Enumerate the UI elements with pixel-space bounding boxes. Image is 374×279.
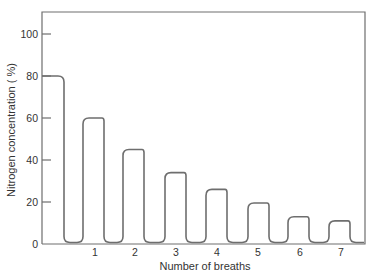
x-axis-ticks: 1234567	[92, 246, 344, 258]
y-tick-label: 60	[26, 112, 38, 124]
y-tick-label: 40	[26, 154, 38, 166]
x-tick-label: 4	[214, 246, 220, 258]
nitrogen-washout-chart: 020406080100 1234567 Number of breaths N…	[0, 0, 374, 279]
y-axis-label: Nitrogen concentration ( %)	[5, 63, 17, 197]
x-tick-label: 2	[132, 246, 138, 258]
y-axis-ticks: 020406080100	[20, 28, 51, 250]
x-tick-label: 1	[92, 246, 98, 258]
x-tick-label: 7	[338, 246, 344, 258]
y-tick-label: 100	[20, 28, 38, 40]
y-tick-label: 20	[26, 196, 38, 208]
nitrogen-trace	[42, 76, 364, 243]
x-tick-label: 3	[173, 246, 179, 258]
x-tick-label: 5	[255, 246, 261, 258]
y-tick-label: 80	[26, 70, 38, 82]
x-tick-label: 6	[297, 246, 303, 258]
plot-frame	[42, 12, 365, 244]
y-tick-label: 0	[32, 238, 38, 250]
x-axis-label: Number of breaths	[159, 260, 251, 272]
